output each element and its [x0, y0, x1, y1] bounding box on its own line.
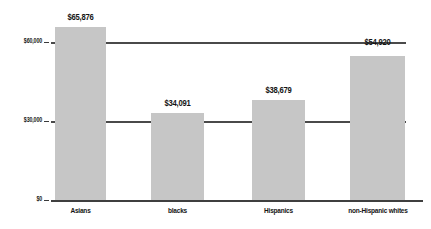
y-tick-label-30000-wrapper: $30,000 [4, 117, 42, 125]
bar-value-non-hispanic-whites: $54,920 [343, 38, 412, 47]
y-tick-dash-60000 [44, 42, 49, 43]
y-tick-label-60000: $60,000 [11, 38, 42, 45]
bar-asians [55, 27, 106, 200]
bar-non-hispanic-whites [350, 56, 405, 200]
category-label-blacks: blacks [143, 207, 213, 215]
y-tick-label-60000-wrapper: $60,000 [4, 38, 42, 46]
y-tick-label-0: $0 [11, 196, 42, 203]
bar-hispanics [252, 100, 305, 200]
y-tick-label-0-wrapper: $0 [4, 196, 42, 204]
category-label-hispanics: Hispanics [244, 207, 314, 215]
y-tick-dash-0 [44, 200, 49, 201]
bar-value-blacks: $34,091 [143, 99, 212, 108]
bar-value-hispanics: $38,679 [244, 86, 313, 95]
bar-blacks [151, 113, 204, 200]
y-tick-label-30000: $30,000 [11, 117, 42, 124]
category-label-non-hispanic-whites: non-Hispanic whites [342, 207, 414, 215]
bar-value-asians: $65,876 [46, 13, 115, 22]
plot-area: $60,000 $30,000 $0 $65,876 Asians $34,09… [0, 0, 431, 229]
category-label-asians: Asians [46, 207, 116, 215]
bar-chart: $60,000 $30,000 $0 $65,876 Asians $34,09… [0, 0, 431, 229]
x-axis-baseline [51, 200, 423, 202]
y-tick-dash-30000 [44, 121, 49, 122]
